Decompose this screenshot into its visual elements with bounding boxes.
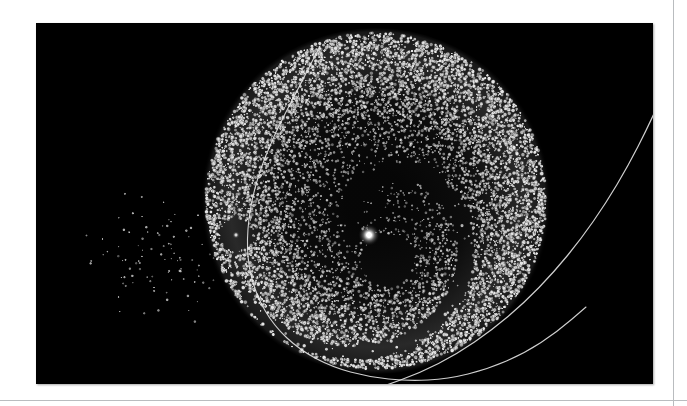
- page-rule-horizontal: [0, 400, 687, 401]
- particle-cloud-plot: [36, 23, 653, 384]
- figure-caption: [0, 0, 1, 1]
- page-rule-vertical: [673, 0, 674, 406]
- figure-page: [0, 0, 687, 406]
- figure-panel: [36, 23, 653, 384]
